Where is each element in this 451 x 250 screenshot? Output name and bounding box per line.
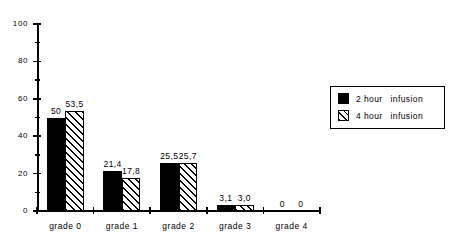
legend-label-2-hour-infusion: 2 hourinfusion (356, 94, 423, 104)
legend-swatch-solid-icon (338, 93, 349, 104)
x-axis-label: grade 3 (205, 222, 265, 231)
x-axis-label: grade 2 (149, 222, 209, 231)
y-tick-label: 0 (2, 207, 28, 215)
bar-value-label: 0 (285, 200, 317, 209)
x-axis-label: grade 0 (35, 222, 95, 231)
bar-grade-3-series-2 (235, 205, 254, 211)
bar-grade-2-series-1 (160, 163, 179, 211)
legend-swatch-hatch-icon (338, 110, 349, 121)
x-axis-label: grade 4 (262, 222, 322, 231)
bar-grade-1-series-1 (103, 171, 122, 211)
y-tick-label: 20 (2, 170, 28, 178)
bar-value-label: 17,8 (115, 167, 147, 176)
bar-value-label: 53,5 (59, 100, 91, 109)
y-tick-label: 40 (2, 132, 28, 140)
plot-area: 5053,521,417,825,525,73,13,000 (37, 24, 320, 211)
legend-label-4-hour-infusion: 4 hourinfusion (356, 111, 423, 121)
y-tick-label: 60 (2, 95, 28, 103)
bar-grade-1-series-2 (122, 178, 141, 211)
bar-grade-0-series-1 (47, 118, 66, 212)
bar-value-label: 3,0 (228, 194, 260, 203)
bar-chart: 020406080100 grade 0grade 1grade 2grade … (0, 0, 451, 250)
chart-legend: 2 hourinfusion 4 hourinfusion (330, 86, 445, 129)
y-tick-label: 100 (2, 20, 28, 28)
x-axis-label: grade 1 (92, 222, 152, 231)
y-tick-label: 80 (2, 57, 28, 65)
bar-value-label: 25,7 (172, 152, 204, 161)
bar-grade-2-series-2 (179, 163, 198, 211)
bar-grade-0-series-2 (65, 111, 84, 211)
bar-grade-3-series-1 (217, 205, 236, 211)
